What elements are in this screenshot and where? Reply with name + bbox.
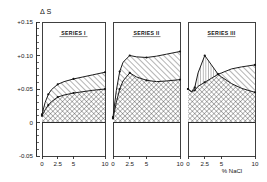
y-tick-marks	[36, 22, 40, 156]
x-tick-label: 2.5	[125, 160, 134, 167]
data-point-marker	[104, 88, 106, 90]
y-tick-label: +0.15	[17, 18, 33, 25]
y-axis: Δ S	[36, 7, 51, 156]
x-tick-label: 2.5	[200, 160, 209, 167]
x-tick-label: 0	[111, 160, 115, 167]
y-tick-label: 0	[30, 119, 34, 126]
x-tick-label: 0	[40, 160, 44, 167]
y-tick-label: -0.05	[19, 152, 34, 159]
data-point-marker	[194, 89, 196, 91]
data-point-marker	[217, 73, 219, 75]
data-point-marker	[179, 50, 181, 52]
delta-s-vs-nacl-chart: Δ S +0.15+0.10+0.050-0.05 SERIES ISERIES…	[0, 0, 267, 182]
x-tick-label: 5	[220, 160, 224, 167]
data-point-marker	[57, 83, 59, 85]
x-tick-label: 0	[186, 160, 190, 167]
data-point-marker	[104, 71, 106, 73]
data-point-marker	[72, 78, 74, 80]
y-tick-labels: +0.15+0.10+0.050-0.05	[17, 18, 33, 159]
data-point-marker	[112, 117, 114, 119]
x-tick-labels: 02.551002.551002.5510	[40, 160, 259, 167]
data-point-marker	[254, 64, 256, 66]
chart-panel: SERIES II	[112, 22, 181, 159]
x-tick-label: 10	[102, 160, 109, 167]
data-point-marker	[129, 54, 131, 56]
x-tick-label: 10	[252, 160, 259, 167]
panel-title: SERIES III	[208, 30, 236, 36]
data-point-marker	[254, 91, 256, 93]
data-point-marker	[72, 92, 74, 94]
data-point-marker	[145, 79, 147, 81]
data-point-marker	[187, 88, 189, 90]
data-point-marker	[119, 88, 121, 90]
data-point-marker	[57, 96, 59, 98]
data-point-marker	[194, 87, 196, 89]
data-point-marker	[41, 115, 43, 117]
data-point-marker	[145, 56, 147, 58]
x-tick-label: 2.5	[53, 160, 62, 167]
data-point-marker	[204, 54, 206, 56]
panel-title: SERIES I	[61, 30, 86, 36]
y-axis-title: Δ S	[40, 7, 51, 16]
panels: SERIES ISERIES IISERIES III	[41, 22, 256, 159]
x-tick-label: 10	[177, 160, 184, 167]
data-point-marker	[119, 70, 121, 72]
y-tick-label: +0.05	[17, 85, 33, 92]
data-point-marker	[179, 79, 181, 81]
x-tick-label: 5	[145, 160, 149, 167]
data-point-marker	[47, 93, 49, 95]
panel-title: SERIES II	[133, 30, 159, 36]
data-point-marker	[47, 104, 49, 106]
chart-panel: SERIES III	[187, 22, 256, 159]
x-tick-label: 5	[72, 160, 76, 167]
y-tick-label: +0.10	[17, 52, 33, 59]
chart-panel: SERIES I	[41, 22, 106, 159]
data-point-marker	[204, 81, 206, 83]
data-point-marker	[129, 72, 131, 74]
chart-figure: Δ S +0.15+0.10+0.050-0.05 SERIES ISERIES…	[0, 0, 267, 182]
x-axis-title: % NaCl	[222, 168, 242, 174]
